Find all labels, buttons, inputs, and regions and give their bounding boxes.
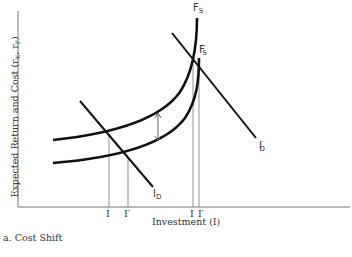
x-axis-label: Investment (I) [152,216,220,227]
curve-fs-prime [53,58,199,163]
figure-caption: a. Cost Shift [3,232,62,243]
tick-iprime-left: I′ [124,208,130,219]
label-fs-prime: F′S [199,44,207,57]
label-fs: FS [193,2,203,15]
line-id [80,101,153,187]
tick-i-left: I [106,208,110,219]
label-id-prime: I′D [259,140,265,153]
shift-arrow [155,113,161,141]
label-id: ID [153,188,161,201]
y-axis-label: Expected Return and Cost (rK, rF) [9,47,22,197]
